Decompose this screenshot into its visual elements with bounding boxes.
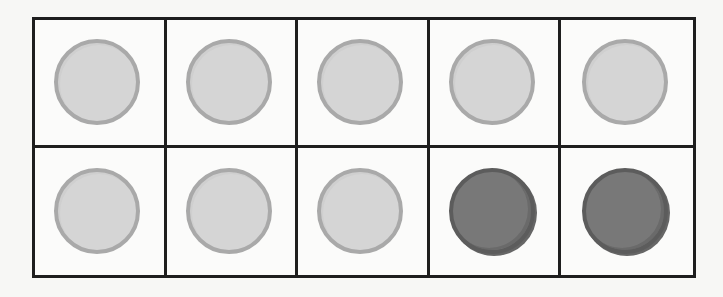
frame-cell-r1-c3 [298,20,430,148]
ten-frame [32,17,696,278]
dark-counter-icon [449,168,535,254]
light-counter-icon [317,168,403,254]
frame-cell-r1-c4 [430,20,562,148]
dark-counter-icon [582,168,668,254]
light-counter-icon [54,168,140,254]
light-counter-icon [186,168,272,254]
light-counter-icon [449,39,535,125]
frame-cell-r2-c5 [561,148,693,276]
frame-cell-r1-c5 [561,20,693,148]
light-counter-icon [186,39,272,125]
frame-cell-r2-c1 [35,148,167,276]
frame-cell-r1-c2 [167,20,299,148]
frame-cell-r2-c3 [298,148,430,276]
frame-cell-r2-c2 [167,148,299,276]
light-counter-icon [317,39,403,125]
light-counter-icon [54,39,140,125]
frame-cell-r2-c4 [430,148,562,276]
frame-cell-r1-c1 [35,20,167,148]
light-counter-icon [582,39,668,125]
